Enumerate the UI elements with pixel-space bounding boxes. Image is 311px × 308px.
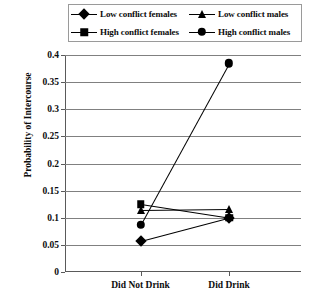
data-point-circle — [136, 221, 144, 229]
y-tick-label: 0.4 — [47, 50, 59, 60]
y-tick-label: 0.2 — [47, 159, 59, 169]
series-line — [140, 218, 229, 243]
x-tick-label: Did Not Drink — [111, 280, 170, 290]
y-tick-mark — [61, 136, 65, 137]
chart-legend: Low conflict females Low conflict males … — [68, 4, 302, 42]
y-tick-label: 0.35 — [42, 77, 59, 87]
series-line — [141, 209, 230, 211]
gridline — [65, 136, 301, 137]
legend-item-low-conflict-males: Low conflict males — [189, 8, 305, 20]
data-point-triangle — [225, 205, 233, 213]
gridline — [65, 218, 301, 219]
y-tick-mark — [61, 55, 65, 56]
legend-item-high-conflict-females: High conflict females — [71, 26, 189, 38]
square-marker-icon — [71, 26, 97, 38]
gridline — [65, 109, 301, 110]
y-tick-mark — [61, 272, 65, 273]
legend-item-low-conflict-females: Low conflict females — [71, 8, 189, 20]
y-tick-mark — [61, 109, 65, 110]
data-point-circle — [225, 59, 233, 67]
y-tick-label: 0.05 — [42, 240, 59, 250]
legend-label: High conflict females — [100, 27, 179, 37]
series-line — [140, 63, 230, 225]
legend-item-high-conflict-males: High conflict males — [189, 26, 305, 38]
legend-label: Low conflict males — [218, 9, 288, 19]
y-tick-label: 0.15 — [42, 186, 59, 196]
legend-label: High conflict males — [218, 27, 290, 37]
y-tick-mark — [61, 245, 65, 246]
x-axis-line — [65, 271, 301, 272]
gridline — [65, 55, 301, 56]
y-tick-mark — [61, 218, 65, 219]
data-point-triangle — [137, 206, 145, 214]
gridline — [65, 245, 301, 246]
y-tick-mark — [61, 82, 65, 83]
y-axis-title: Probability of Intercourse — [23, 45, 33, 205]
y-tick-label: 0.25 — [42, 131, 59, 141]
y-tick-label: 0 — [54, 267, 59, 277]
data-point-square — [225, 214, 233, 222]
plot-area: 00.050.10.150.20.250.30.350.4 Did Not Dr… — [65, 55, 301, 272]
gridline — [65, 82, 301, 83]
gridline — [65, 191, 301, 192]
y-tick-mark — [61, 191, 65, 192]
x-tick-mark — [141, 272, 142, 276]
y-tick-mark — [61, 164, 65, 165]
y-tick-label: 0.1 — [47, 213, 59, 223]
legend-label: Low conflict females — [100, 9, 177, 19]
circle-marker-icon — [189, 26, 215, 38]
x-tick-label: Did Drink — [208, 280, 249, 290]
gridline — [65, 164, 301, 165]
triangle-marker-icon — [189, 8, 215, 20]
diamond-marker-icon — [71, 8, 97, 20]
x-tick-mark — [229, 272, 230, 276]
y-tick-label: 0.3 — [47, 104, 59, 114]
